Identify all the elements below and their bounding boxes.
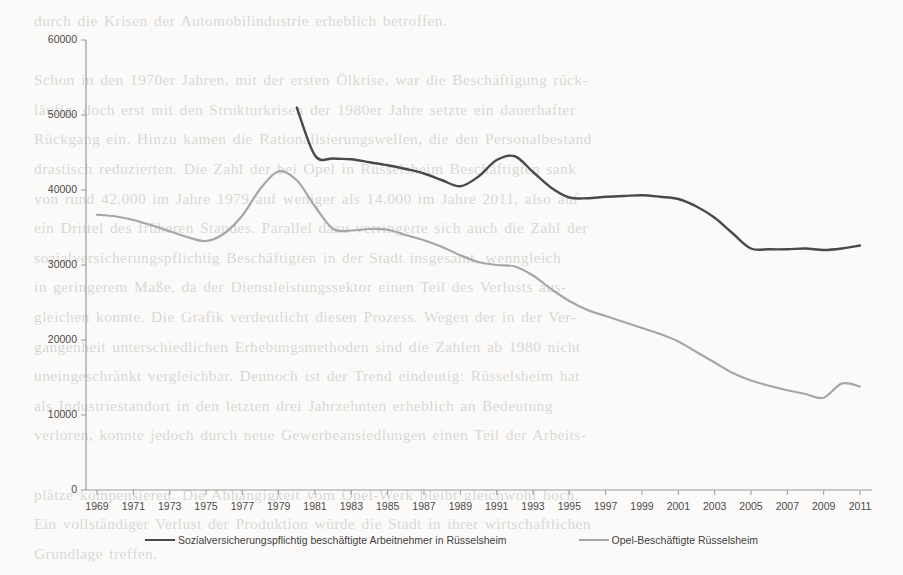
x-axis-tick-label: 2003 <box>695 500 735 512</box>
x-axis-tick-label: 2001 <box>658 500 698 512</box>
x-axis-tick-label: 1971 <box>113 500 153 512</box>
x-axis-tick-label: 1975 <box>186 500 226 512</box>
x-axis-tick-label: 1987 <box>404 500 444 512</box>
chart-series-group <box>97 108 860 399</box>
series-line-opel-beschaeftigte <box>97 171 860 398</box>
line-chart <box>0 0 903 575</box>
x-axis-tick-label: 1995 <box>549 500 589 512</box>
legend-item-label: Sozialversicherungspflichtig beschäftigt… <box>178 534 507 546</box>
y-axis-tick-label: 20000 <box>48 333 77 345</box>
y-axis-tick-label: 10000 <box>48 408 77 420</box>
x-axis-tick-label: 1989 <box>440 500 480 512</box>
x-axis-tick-label: 1997 <box>586 500 626 512</box>
x-axis-tick-label: 1973 <box>150 500 190 512</box>
x-axis-tick-label: 2007 <box>767 500 807 512</box>
x-axis-tick-label: 2005 <box>731 500 771 512</box>
x-axis-tick-label: 2011 <box>840 500 880 512</box>
x-axis-tick-label: 2009 <box>804 500 844 512</box>
legend-item-sozialversicherungspflichtig[interactable]: Sozialversicherungspflichtig beschäftigt… <box>145 534 507 546</box>
y-axis-tick-label: 40000 <box>48 183 77 195</box>
chart-page: durch die Krisen der Automobilindustrie … <box>0 0 903 575</box>
x-axis-tick-label: 1981 <box>295 500 335 512</box>
y-axis-ticks <box>81 40 86 490</box>
chart-legend: Sozialversicherungspflichtig beschäftigt… <box>0 530 903 550</box>
x-axis-tick-label: 1979 <box>259 500 299 512</box>
x-axis-tick-label: 1983 <box>331 500 371 512</box>
x-axis-tick-label: 1999 <box>622 500 662 512</box>
y-axis-tick-label: 60000 <box>48 33 77 45</box>
x-axis-ticks <box>97 490 860 495</box>
y-axis-tick-label: 50000 <box>48 108 77 120</box>
x-axis-tick-label: 1991 <box>477 500 517 512</box>
legend-item-label: Opel-Beschäftigte Rüsselsheim <box>612 534 758 546</box>
y-axis-tick-label: 0 <box>71 483 77 495</box>
legend-item-opel-beschaeftigte[interactable]: Opel-Beschäftigte Rüsselsheim <box>579 534 758 546</box>
legend-swatch-line-icon <box>579 539 609 541</box>
x-axis-tick-label: 1977 <box>222 500 262 512</box>
x-axis-tick-label: 1969 <box>77 500 117 512</box>
legend-swatch-line-icon <box>145 539 175 541</box>
y-axis-tick-label: 30000 <box>48 258 77 270</box>
chart-axes <box>81 40 872 495</box>
x-axis-tick-label: 1993 <box>513 500 553 512</box>
x-axis-tick-label: 1985 <box>368 500 408 512</box>
